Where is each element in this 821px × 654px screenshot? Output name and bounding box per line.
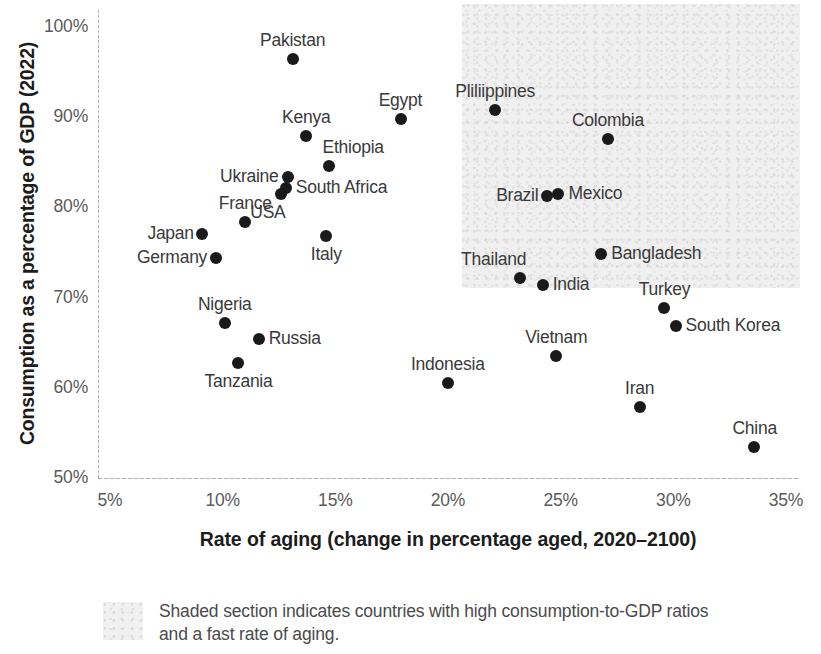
- point-label: Japan: [147, 223, 193, 244]
- data-point[interactable]: [196, 228, 208, 240]
- point-label: Russia: [269, 328, 321, 349]
- x-tick-20pct: 20%: [408, 490, 488, 511]
- point-label: Ethiopia: [323, 137, 384, 158]
- data-point[interactable]: [239, 216, 251, 228]
- x-tick-35pct: 35%: [746, 490, 821, 511]
- y-axis-title: Consumption as a percentage of GDP (2022…: [16, 9, 39, 479]
- y-tick-100pct: 100%: [18, 16, 88, 37]
- data-point[interactable]: [210, 252, 222, 264]
- point-label: Vietnam: [525, 327, 587, 348]
- x-tick-5pct: 5%: [70, 490, 150, 511]
- point-label: Iran: [625, 378, 654, 399]
- point-label: China: [732, 418, 776, 439]
- data-point[interactable]: [253, 333, 265, 345]
- data-point[interactable]: [670, 320, 682, 332]
- scatter-chart-figure: Consumption as a percentage of GDP (2022…: [0, 0, 821, 654]
- data-point[interactable]: [634, 401, 646, 413]
- point-label: Nigeria: [198, 294, 252, 315]
- data-point[interactable]: [232, 357, 244, 369]
- x-axis-title: Rate of aging (change in percentage aged…: [98, 528, 798, 551]
- data-point[interactable]: [395, 113, 407, 125]
- data-point[interactable]: [323, 160, 335, 172]
- y-axis-line: [98, 10, 99, 478]
- data-point[interactable]: [550, 350, 562, 362]
- data-point[interactable]: [514, 272, 526, 284]
- y-tick-50pct: 50%: [18, 467, 88, 488]
- point-label: Indonesia: [411, 354, 485, 375]
- point-label: Turkey: [639, 279, 690, 300]
- point-label: India: [553, 274, 590, 295]
- x-tick-10pct: 10%: [183, 490, 263, 511]
- data-point[interactable]: [219, 317, 231, 329]
- x-axis-line: [98, 478, 800, 479]
- point-label: Egypt: [379, 90, 423, 111]
- point-label: Tanzania: [204, 371, 272, 392]
- point-label: Mexico: [568, 183, 622, 204]
- legend-caption: Shaded section indicates countries with …: [159, 600, 739, 646]
- data-point[interactable]: [537, 279, 549, 291]
- chart-legend: Shaded section indicates countries with …: [103, 600, 803, 646]
- y-tick-90pct: 90%: [18, 106, 88, 127]
- x-tick-25pct: 25%: [521, 490, 601, 511]
- point-label: Ukraine: [220, 166, 279, 187]
- point-label: Italy: [311, 244, 342, 265]
- point-label: Thailand: [461, 249, 526, 270]
- x-tick-30pct: 30%: [633, 490, 713, 511]
- data-point[interactable]: [287, 53, 299, 65]
- point-label: South Korea: [686, 315, 781, 336]
- x-tick-15pct: 15%: [295, 490, 375, 511]
- y-tick-80pct: 80%: [18, 196, 88, 217]
- data-point[interactable]: [541, 190, 553, 202]
- data-point[interactable]: [275, 188, 287, 200]
- y-tick-70pct: 70%: [18, 287, 88, 308]
- data-point[interactable]: [300, 130, 312, 142]
- data-point[interactable]: [282, 171, 294, 183]
- point-label: Germany: [137, 247, 207, 268]
- data-point[interactable]: [442, 377, 454, 389]
- point-label: France: [219, 193, 272, 214]
- legend-shade-swatch: [103, 602, 143, 640]
- point-label: Kenya: [282, 107, 330, 128]
- point-label: Colombia: [572, 110, 644, 131]
- y-tick-60pct: 60%: [18, 377, 88, 398]
- data-point[interactable]: [748, 441, 760, 453]
- point-label: South Africa: [296, 177, 387, 198]
- data-point[interactable]: [320, 230, 332, 242]
- data-point[interactable]: [602, 133, 614, 145]
- point-label: Pakistan: [260, 30, 325, 51]
- point-label: Brazil: [496, 185, 538, 206]
- point-label: Pliliippines: [455, 81, 535, 102]
- point-label: Bangladesh: [611, 243, 701, 264]
- data-point[interactable]: [658, 302, 670, 314]
